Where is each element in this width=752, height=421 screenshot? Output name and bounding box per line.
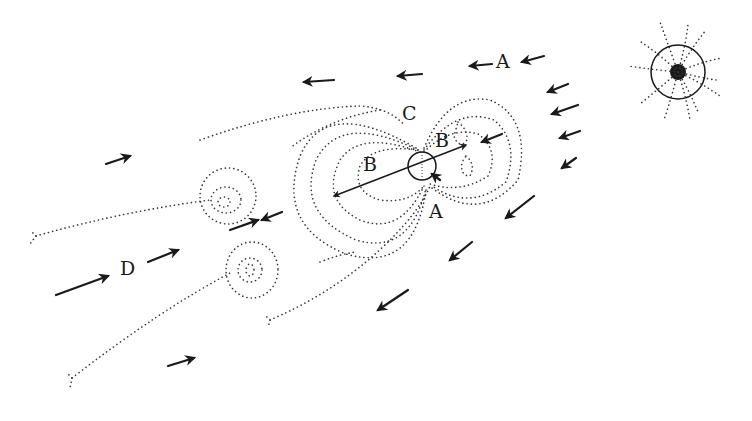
outbound-flow-arrows xyxy=(56,156,282,366)
label-d: D xyxy=(120,259,135,278)
b-axis-arrow xyxy=(334,134,502,196)
upper-vortex xyxy=(200,168,256,224)
label-b-left: B xyxy=(363,155,377,174)
inbound-flow-arrows xyxy=(304,56,580,310)
tail-boundaries xyxy=(30,106,430,388)
label-c: C xyxy=(402,104,417,123)
label-b-right: B xyxy=(435,131,449,150)
star-icon xyxy=(628,22,722,120)
right-field-lobe xyxy=(424,99,522,204)
lower-vortex xyxy=(226,242,278,298)
label-a-bottom: A xyxy=(429,202,443,221)
left-field-lobe xyxy=(294,124,426,258)
label-a-top: A xyxy=(496,52,510,71)
diagram-canvas: A C B B A D xyxy=(0,0,752,421)
